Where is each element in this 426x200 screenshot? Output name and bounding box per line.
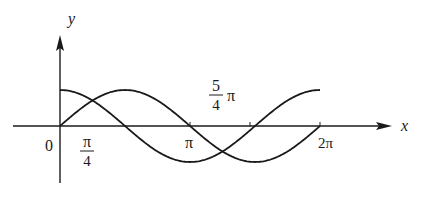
svg-text:π: π — [83, 133, 91, 150]
tick-label-2pi: 2π — [318, 135, 334, 151]
tick-label-pi-over-4: π 4 — [80, 133, 94, 169]
tick-label-pi: π — [185, 134, 193, 151]
svg-text:4: 4 — [83, 153, 91, 169]
x-axis-label: x — [400, 117, 408, 134]
svg-text:5: 5 — [212, 77, 220, 94]
y-axis-label: y — [66, 10, 76, 28]
origin-label: 0 — [45, 137, 53, 154]
trig-graph: y x 0 π 4 π 2π 5 4 π — [0, 0, 426, 200]
svg-text:π: π — [227, 87, 235, 104]
svg-text:4: 4 — [212, 97, 220, 113]
annotation-five-pi-over-4: 5 4 π — [209, 77, 235, 113]
